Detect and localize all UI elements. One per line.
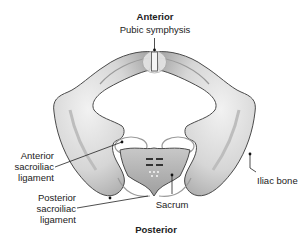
sacrum-label: Sacrum	[148, 199, 196, 210]
iliac-bone-label: Iliac bone	[257, 175, 298, 186]
anterior-orientation-label: Anterior	[131, 11, 179, 22]
posterior-orientation-label: Posterior	[130, 224, 182, 235]
pubic-symphysis-label: Pubic symphysis	[107, 24, 203, 35]
pelvis-diagram: Anterior Pubic symphysis Anterior sacroi…	[0, 0, 307, 241]
anterior-sacroiliac-ligament-label: Anterior sacroiliac ligament	[4, 150, 54, 183]
sacrum-bone	[120, 148, 190, 196]
pubic-symphysis-joint	[143, 51, 167, 73]
posterior-sacroiliac-ligament-label: Posterior sacroiliac ligament	[24, 192, 76, 225]
